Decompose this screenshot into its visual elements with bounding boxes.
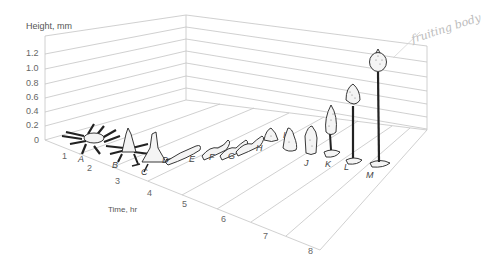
- stage-label-i: I: [283, 131, 286, 140]
- height-tick-0-4: 0.4: [26, 107, 39, 116]
- height-tick-0-2: 0.2: [26, 121, 39, 130]
- grid-lines: [45, 15, 427, 250]
- stage-b-mound: [106, 128, 150, 164]
- stage-d-slug: [165, 146, 201, 166]
- stage-label-b: B: [112, 161, 118, 170]
- height-tick-1-0: 1.0: [26, 64, 39, 73]
- time-tick-2: 2: [87, 164, 92, 173]
- stage-label-h: H: [256, 144, 263, 153]
- time-tick-3: 3: [115, 177, 120, 186]
- stage-label-d: D: [162, 156, 169, 165]
- stage-label-g: G: [228, 152, 235, 161]
- height-tick-0-6: 0.6: [26, 93, 39, 102]
- height-tick-1-2: 1.2: [26, 49, 39, 58]
- stage-label-m: M: [366, 171, 374, 180]
- stage-label-j: J: [304, 159, 309, 168]
- organism-stages: [62, 49, 390, 172]
- stage-label-a: A: [78, 155, 84, 164]
- x-axis-label: Time, hr: [108, 206, 137, 214]
- height-tick-0-8: 0.8: [26, 79, 39, 88]
- time-tick-6: 6: [221, 215, 226, 224]
- time-tick-4: 4: [147, 189, 152, 198]
- stage-label-c: C: [141, 168, 148, 177]
- stage-l-fruiting-body: [346, 84, 362, 164]
- time-tick-8: 8: [308, 247, 313, 256]
- time-tick-1: 1: [62, 152, 67, 161]
- stage-label-e: E: [189, 155, 195, 164]
- stage-label-l: L: [344, 163, 349, 172]
- height-tick-0: 0: [34, 136, 39, 145]
- development-diagram: Height, mm Time, hr 0 0.2 0.4 0.6 0.8 1.…: [0, 0, 490, 271]
- stage-k-culminant: [324, 105, 340, 157]
- y-axis-label: Height, mm: [26, 22, 72, 31]
- stage-label-f: F: [209, 153, 215, 162]
- stage-h-culminant: [264, 128, 278, 142]
- time-tick-5: 5: [182, 200, 187, 209]
- time-tick-7: 7: [263, 232, 268, 241]
- stage-j-culminant: [305, 126, 317, 155]
- stage-label-k: K: [325, 160, 331, 169]
